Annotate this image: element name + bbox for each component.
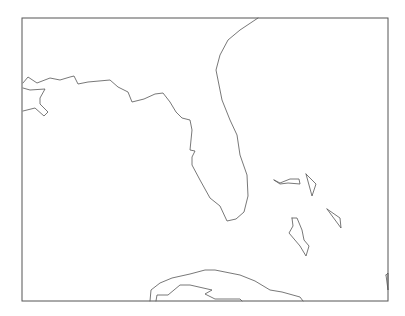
map-canvas	[0, 0, 405, 316]
map-background	[0, 0, 405, 316]
